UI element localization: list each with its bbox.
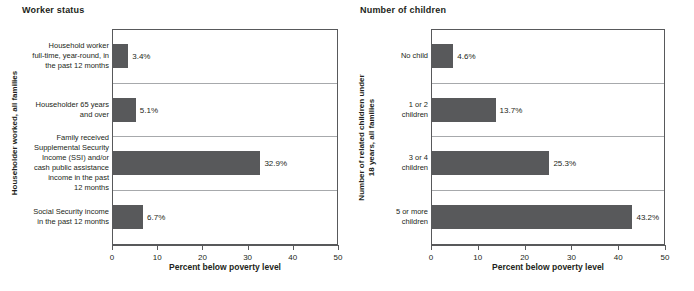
x-axis-tick bbox=[157, 245, 158, 250]
category-label: 3 or 4 children bbox=[366, 153, 428, 173]
chart-panel-number-of-children: Number of children Number of related chi… bbox=[347, 0, 694, 291]
x-axis-tick bbox=[248, 245, 249, 250]
category-band: Social Security income in the past 12 mo… bbox=[113, 191, 337, 245]
category-label: 1 or 2 children bbox=[366, 100, 428, 120]
chart-title-number-of-children: Number of children bbox=[360, 5, 446, 15]
bar-value-label: 3.4% bbox=[132, 52, 150, 61]
category-band: Family received Supplemental Security In… bbox=[113, 137, 337, 191]
x-axis-title-number-of-children: Percent below poverty level bbox=[431, 262, 665, 272]
x-axis-tick-label: 10 bbox=[473, 253, 482, 262]
bar[interactable] bbox=[432, 98, 496, 122]
x-axis-tick bbox=[665, 245, 666, 250]
chart-title-worker-status: Worker status bbox=[22, 5, 84, 15]
x-axis-tick-label: 30 bbox=[243, 253, 252, 262]
bar-value-label: 13.7% bbox=[500, 105, 523, 114]
x-axis-tick-label: 30 bbox=[567, 253, 576, 262]
x-axis-title-worker-status: Percent below poverty level bbox=[112, 262, 338, 272]
x-axis-tick bbox=[618, 245, 619, 250]
bar-value-label: 5.1% bbox=[140, 105, 158, 114]
category-band: 3 or 4 children 25.3% bbox=[432, 137, 664, 191]
bar[interactable] bbox=[432, 205, 632, 229]
x-axis-tick-label: 0 bbox=[110, 253, 114, 262]
category-label: Social Security income in the past 12 mo… bbox=[19, 207, 109, 227]
chart-panel-worker-status: Worker status Householder worked, all fa… bbox=[0, 0, 347, 291]
x-axis-tick bbox=[202, 245, 203, 250]
x-axis-tick bbox=[525, 245, 526, 250]
plot-area-number-of-children: No child 4.6% 1 or 2 children 13.7% 3 or… bbox=[431, 29, 665, 245]
bar[interactable] bbox=[432, 151, 549, 175]
x-axis-tick-label: 40 bbox=[614, 253, 623, 262]
x-axis-tick bbox=[431, 245, 432, 250]
plot-area-worker-status: Household worker full-time, year-round, … bbox=[112, 29, 338, 245]
category-band: 5 or more children 43.2% bbox=[432, 191, 664, 245]
category-band: Household worker full-time, year-round, … bbox=[113, 30, 337, 84]
bar-value-label: 6.7% bbox=[147, 213, 165, 222]
bar-value-label: 4.6% bbox=[457, 52, 475, 61]
x-axis-tick-label: 20 bbox=[520, 253, 529, 262]
bar[interactable] bbox=[113, 98, 136, 122]
x-axis-tick-label: 50 bbox=[661, 253, 670, 262]
bar[interactable] bbox=[432, 44, 453, 68]
category-band: No child 4.6% bbox=[432, 30, 664, 84]
x-axis-number-of-children: 01020304050 bbox=[431, 245, 665, 246]
x-axis-tick-label: 50 bbox=[334, 253, 343, 262]
x-axis-tick-label: 10 bbox=[153, 253, 162, 262]
bar-value-label: 32.9% bbox=[264, 159, 287, 168]
x-axis-tick bbox=[478, 245, 479, 250]
bar[interactable] bbox=[113, 205, 143, 229]
x-axis-tick-label: 40 bbox=[288, 253, 297, 262]
bar-value-label: 25.3% bbox=[553, 159, 576, 168]
category-label: Family received Supplemental Security In… bbox=[19, 133, 109, 193]
category-label: 5 or more children bbox=[366, 207, 428, 227]
x-axis-tick bbox=[571, 245, 572, 250]
x-axis-tick-label: 0 bbox=[429, 253, 433, 262]
bar-value-label: 43.2% bbox=[636, 213, 659, 222]
category-label: No child bbox=[366, 51, 428, 61]
x-axis-tick bbox=[338, 245, 339, 250]
category-label: Householder 65 years and over bbox=[19, 100, 109, 120]
bar[interactable] bbox=[113, 44, 128, 68]
x-axis-tick-label: 20 bbox=[198, 253, 207, 262]
category-band: 1 or 2 children 13.7% bbox=[432, 84, 664, 138]
category-band: Householder 65 years and over 5.1% bbox=[113, 84, 337, 138]
x-axis-tick bbox=[112, 245, 113, 250]
category-label: Household worker full-time, year-round, … bbox=[19, 41, 109, 71]
bar[interactable] bbox=[113, 151, 260, 175]
x-axis-tick bbox=[293, 245, 294, 250]
x-axis-worker-status: 01020304050 bbox=[112, 245, 338, 246]
